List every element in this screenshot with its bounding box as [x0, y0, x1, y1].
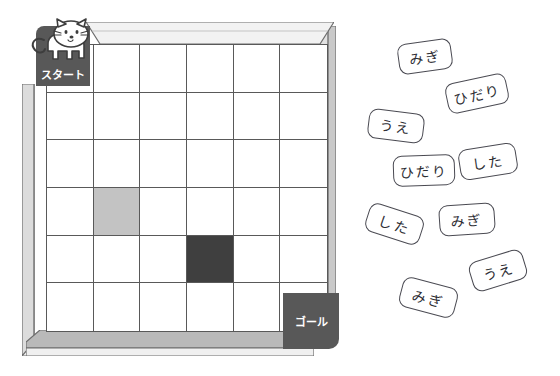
maze-cell[interactable]	[280, 140, 327, 188]
maze-cell[interactable]	[234, 283, 281, 331]
word-card[interactable]: した	[363, 201, 426, 247]
maze-cell[interactable]	[47, 140, 94, 188]
word-card-label: した	[376, 210, 413, 239]
worksheet-scene: スタート ゴール	[0, 0, 560, 376]
word-card-tray: みぎ ひだり うえ ひだり した した みぎ うえ みぎ	[360, 0, 560, 376]
word-card-label: みぎ	[408, 44, 442, 68]
maze-cell[interactable]	[234, 140, 281, 188]
maze-cell[interactable]	[94, 236, 141, 284]
maze-cell[interactable]	[187, 93, 234, 141]
word-card[interactable]: した	[457, 142, 519, 182]
maze-cell-marked-light[interactable]	[94, 188, 141, 236]
word-card-label: した	[471, 149, 506, 174]
maze-cell[interactable]	[234, 236, 281, 284]
word-card-label: ひだり	[451, 79, 502, 109]
word-card[interactable]: みぎ	[397, 275, 460, 320]
maze-cell[interactable]	[280, 45, 327, 93]
maze-cell[interactable]	[280, 93, 327, 141]
maze-cell-marked-dark[interactable]	[187, 236, 234, 284]
maze-cell[interactable]	[280, 188, 327, 236]
word-card[interactable]: ひだり	[392, 154, 455, 187]
word-card-label: うえ	[379, 114, 413, 138]
maze-cell[interactable]	[140, 45, 187, 93]
maze-cell[interactable]	[280, 236, 327, 284]
maze-cell[interactable]	[47, 188, 94, 236]
maze-board: スタート ゴール	[0, 0, 360, 376]
word-card-label: うえ	[480, 256, 516, 284]
maze-cell[interactable]	[94, 283, 141, 331]
goal-label: ゴール	[283, 313, 339, 329]
board-wall-left	[22, 84, 48, 356]
maze-cell[interactable]	[140, 93, 187, 141]
maze-cell[interactable]	[140, 188, 187, 236]
cat-icon	[24, 18, 102, 72]
word-card[interactable]: うえ	[467, 247, 530, 293]
word-card[interactable]: みぎ	[396, 37, 454, 75]
maze-cell[interactable]	[187, 283, 234, 331]
maze-grid[interactable]	[46, 44, 328, 332]
maze-cell[interactable]	[234, 93, 281, 141]
maze-cell[interactable]	[94, 93, 141, 141]
word-card[interactable]: うえ	[366, 108, 425, 145]
maze-cell[interactable]	[47, 93, 94, 141]
board-wall-top	[86, 22, 334, 44]
maze-cell[interactable]	[187, 140, 234, 188]
maze-cell[interactable]	[47, 283, 94, 331]
word-card[interactable]: みぎ	[438, 202, 496, 237]
maze-cell[interactable]	[234, 188, 281, 236]
maze-cell[interactable]	[234, 45, 281, 93]
maze-cell[interactable]	[140, 140, 187, 188]
word-card[interactable]: ひだり	[443, 72, 510, 115]
maze-cell[interactable]	[140, 236, 187, 284]
maze-cell[interactable]	[187, 188, 234, 236]
maze-cell[interactable]	[187, 45, 234, 93]
maze-cell[interactable]	[140, 283, 187, 331]
maze-cell[interactable]	[47, 236, 94, 284]
word-card-label: みぎ	[450, 208, 483, 230]
goal-marker: ゴール	[283, 293, 339, 349]
board-wall-bottom	[26, 330, 314, 356]
word-card-label: みぎ	[410, 284, 446, 312]
word-card-label: ひだり	[400, 160, 449, 182]
maze-cell[interactable]	[94, 140, 141, 188]
